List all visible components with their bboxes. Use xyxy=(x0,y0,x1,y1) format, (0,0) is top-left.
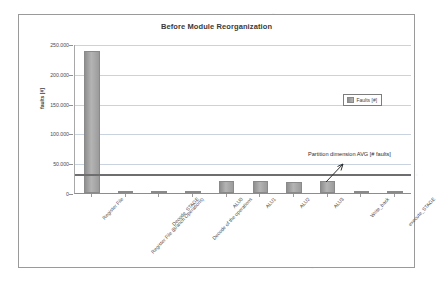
x-axis-tick-labels: Register FileRegister File (Branch Opera… xyxy=(74,194,411,274)
legend-label-faults: Faults [#] xyxy=(357,97,378,103)
x-axis-tick-mark xyxy=(91,194,92,197)
x-axis-tick-mark xyxy=(394,194,395,197)
x-axis-tick-mark xyxy=(158,194,159,197)
x-axis-tick-label: Write_back xyxy=(369,196,390,218)
x-axis-tick-mark xyxy=(327,194,328,197)
bar xyxy=(185,191,201,193)
bar xyxy=(151,191,167,193)
gridline xyxy=(75,164,411,165)
x-axis-tick-label: ALU1 xyxy=(264,196,277,209)
x-axis-tick-label: execute_STAGE xyxy=(407,196,436,227)
bar xyxy=(354,191,370,193)
x-axis-tick-label: Decode_STAGE xyxy=(171,196,200,227)
bar xyxy=(118,191,134,193)
x-axis-tick-mark xyxy=(226,194,227,197)
y-axis-tick-mark xyxy=(69,45,73,46)
x-axis-tick-label: Register File xyxy=(101,196,125,221)
x-axis-tick-mark xyxy=(360,194,361,197)
x-axis-tick-label: ALU2 xyxy=(298,196,311,209)
bar xyxy=(286,182,302,193)
x-axis-tick-mark xyxy=(125,194,126,197)
y-axis-tick-mark xyxy=(69,134,73,135)
chart-frame: Before Module Reorganization faults [#] … xyxy=(18,14,415,268)
legend: Faults [#] xyxy=(343,94,382,106)
legend-swatch-faults xyxy=(347,97,354,103)
x-axis-tick-label: Register File (Branch Operations) xyxy=(149,196,204,255)
partition-avg-line xyxy=(75,174,411,176)
x-axis-tick-mark xyxy=(293,194,294,197)
bar xyxy=(84,51,100,193)
x-axis-tick-mark xyxy=(259,194,260,197)
bar xyxy=(253,181,269,193)
y-axis-tick-mark xyxy=(69,75,73,76)
y-axis-tick-mark xyxy=(69,194,73,195)
bar xyxy=(387,191,403,193)
bar xyxy=(219,181,235,193)
plot-area xyxy=(74,45,411,194)
y-axis-tick-mark xyxy=(69,164,73,165)
gridline xyxy=(75,134,411,135)
gridline xyxy=(75,75,411,76)
y-axis-tick-mark xyxy=(69,105,73,106)
partition-avg-annotation-label: Partition dimension AVG [# faults] xyxy=(308,151,391,157)
bar xyxy=(320,181,336,193)
x-axis-tick-mark xyxy=(192,194,193,197)
y-axis-tick-marks xyxy=(19,45,74,194)
gridline xyxy=(75,45,411,46)
x-axis-tick-label: ALU3 xyxy=(332,196,345,209)
chart-title: Before Module Reorganization xyxy=(19,22,414,31)
